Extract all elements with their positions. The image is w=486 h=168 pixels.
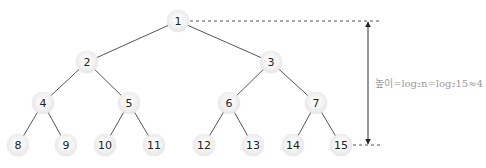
tree-node-13: 13 xyxy=(242,134,264,156)
tree-node-15: 15 xyxy=(330,134,352,156)
tree-node-3: 3 xyxy=(260,51,282,73)
tree-node-7: 7 xyxy=(305,92,327,114)
tree-node-9: 9 xyxy=(55,134,77,156)
tree-node-6: 6 xyxy=(218,92,240,114)
tree-edge xyxy=(87,21,178,62)
tree-node-12: 12 xyxy=(193,134,215,156)
tree-node-11: 11 xyxy=(143,134,165,156)
tree-edge xyxy=(178,21,271,62)
tree-node-2: 2 xyxy=(76,51,98,73)
tree-node-10: 10 xyxy=(94,134,116,156)
tree-node-8: 8 xyxy=(7,134,29,156)
height-label: 높이=log₂n=log₂15≈4 xyxy=(375,75,483,90)
tree-node-14: 14 xyxy=(282,134,304,156)
tree-node-5: 5 xyxy=(118,92,140,114)
tree-node-4: 4 xyxy=(32,92,54,114)
tree-node-1: 1 xyxy=(167,10,189,32)
